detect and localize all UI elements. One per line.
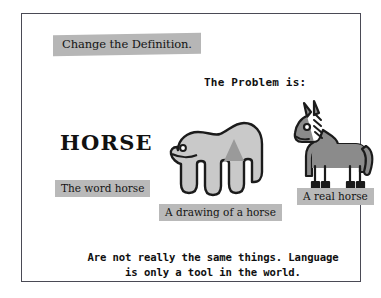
hand-horse-drawing [164, 106, 272, 208]
slide-frame: Change the Definition. The Problem is: H… [21, 13, 361, 282]
page-title: Change the Definition. [62, 37, 192, 51]
title-highlight-box: Change the Definition. [53, 33, 201, 56]
conclusion-text: Are not really the same things. Language… [52, 250, 374, 280]
word-specimen: HORSE [60, 130, 153, 155]
problem-heading: The Problem is: [204, 76, 306, 89]
real-horse-drawing [290, 96, 376, 202]
slide-canvas: Change the Definition. The Problem is: H… [0, 0, 381, 298]
caption-drawing-of-horse: A drawing of a horse [159, 204, 282, 221]
caption-word-horse: The word horse [55, 180, 150, 197]
conclusion-line-1: Are not really the same things. Language [52, 250, 374, 265]
caption-real-horse: A real horse [297, 188, 374, 205]
conclusion-line-2: is only a tool in the world. [52, 265, 374, 280]
